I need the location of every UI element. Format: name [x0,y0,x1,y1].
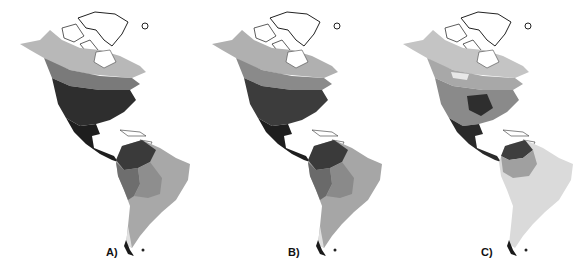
map-panel-c: C) [383,0,578,267]
americas-map-b [192,0,387,267]
americas-map-c [383,0,578,267]
panel-label-b: B) [288,246,300,258]
panel-label-a: A) [106,246,118,258]
panel-label-c: C) [481,246,493,258]
map-panel-b: B) [192,0,387,267]
map-panel-a: A) [0,0,195,267]
americas-map-a [0,0,195,267]
